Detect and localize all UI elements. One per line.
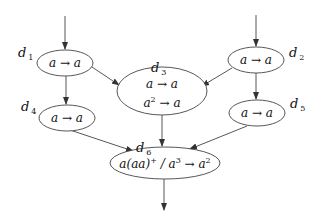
label-d3: d3 — [151, 61, 166, 77]
label-d1: d1 — [18, 46, 33, 62]
node-d1-rule: a → a — [49, 57, 81, 69]
label-d5: d5 — [290, 97, 305, 113]
edge-d2-d3 — [202, 68, 232, 86]
node-d4-rule: a → a — [51, 112, 83, 124]
edge-d4-d6 — [70, 130, 133, 151]
node-d5-rule: a → a — [241, 107, 273, 119]
label-d2: d2 — [289, 46, 304, 62]
edge-d1-d3 — [92, 67, 119, 85]
label-d6: d6 — [136, 141, 151, 157]
edge-d5-d6 — [190, 126, 247, 149]
node-d3-rule-1: a → a — [146, 78, 178, 90]
label-d4: d4 — [21, 100, 36, 116]
diagram-canvas: d1 d2 d3 d4 d5 d6 a → a a → a a → a a2 →… — [0, 0, 321, 217]
node-d6-rule: a(aa)+ / a3 → a2 — [119, 157, 210, 170]
node-d2-rule: a → a — [240, 54, 272, 66]
node-d3-rule-2: a2 → a — [143, 96, 180, 109]
